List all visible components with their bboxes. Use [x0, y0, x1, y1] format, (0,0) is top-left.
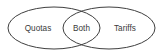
venn-label-intersection: Both	[73, 24, 90, 33]
venn-diagram: Quotas Both Tariffs	[0, 0, 164, 55]
venn-label-right: Tariffs	[114, 24, 136, 33]
venn-label-left: Quotas	[25, 24, 52, 33]
